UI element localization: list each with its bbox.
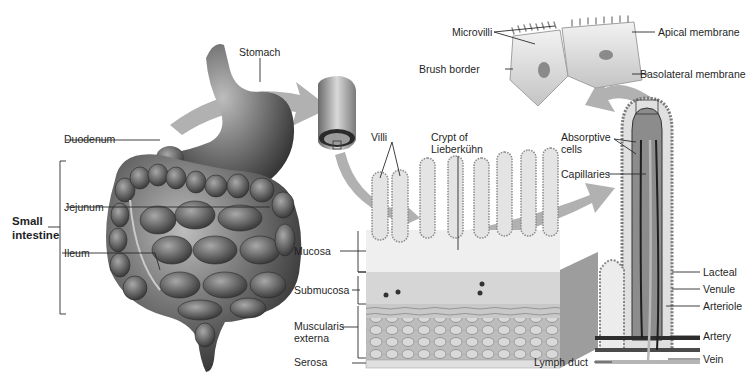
- label-lacteal: Lacteal: [703, 266, 737, 278]
- label-small-intestine-line2: intestine: [12, 229, 59, 242]
- label-stomach: Stomach: [239, 46, 280, 58]
- label-apical-membrane: Apical membrane: [658, 26, 740, 38]
- label-jejunum: Jejunum: [64, 201, 104, 213]
- label-villi: Villi: [371, 131, 387, 143]
- label-submucosa: Submucosa: [294, 284, 349, 296]
- label-venule: Venule: [703, 283, 735, 295]
- label-basolateral-membrane: Basolateral membrane: [640, 68, 746, 80]
- label-mucosa: Mucosa: [294, 245, 331, 257]
- label-crypt-line2: Lieberkühn: [431, 143, 483, 155]
- label-microvilli: Microvilli: [452, 26, 492, 38]
- intestine-segment-illustration: [318, 76, 356, 150]
- intestinal-wall-block: [366, 148, 598, 368]
- label-lymph-duct: Lymph duct: [534, 356, 588, 368]
- label-arteriole: Arteriole: [703, 300, 742, 312]
- label-ileum: Ileum: [64, 247, 90, 259]
- label-vein: Vein: [703, 353, 723, 365]
- label-crypt-line1: Crypt of: [431, 131, 468, 143]
- intestines-illustration: [106, 154, 301, 372]
- label-absorptive-line2: cells: [561, 143, 582, 155]
- label-absorptive-line1: Absorptive: [561, 131, 611, 143]
- label-brush-border: Brush border: [419, 63, 480, 75]
- label-artery: Artery: [703, 330, 731, 342]
- label-capillaries: Capillaries: [561, 168, 610, 180]
- diagram-artwork: [0, 0, 756, 384]
- label-small-intestine-line1: Small: [12, 215, 43, 228]
- label-duodenum: Duodenum: [64, 133, 115, 145]
- label-muscularis-line2: externa: [294, 332, 329, 344]
- label-muscularis-line1: Muscularis: [294, 320, 344, 332]
- label-serosa: Serosa: [294, 356, 327, 368]
